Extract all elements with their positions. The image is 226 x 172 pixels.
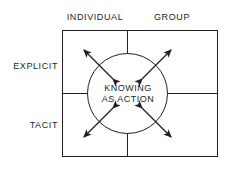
- column-label-group: GROUP: [154, 12, 190, 22]
- knowing-as-action-diagram: INDIVIDUAL GROUP EXPLICIT TACIT KNOWING …: [0, 0, 226, 172]
- center-label-line1: KNOWING: [102, 83, 155, 94]
- row-label-tacit: TACIT: [30, 120, 58, 130]
- column-label-individual: INDIVIDUAL: [67, 12, 124, 22]
- row-label-explicit: EXPLICIT: [13, 61, 58, 71]
- center-label-line2: AS ACTION: [102, 94, 155, 105]
- center-label: KNOWING AS ACTION: [102, 83, 155, 105]
